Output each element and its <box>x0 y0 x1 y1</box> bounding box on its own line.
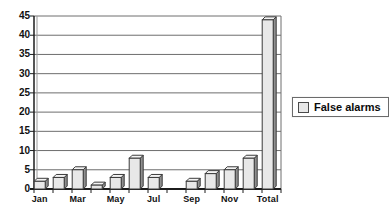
bar-Jul <box>148 177 159 189</box>
bar-May <box>110 177 121 189</box>
bar-Jun <box>129 158 140 189</box>
bar-Feb <box>53 177 64 189</box>
bar-Mar <box>72 170 83 189</box>
legend-label: False alarms <box>314 101 381 113</box>
legend-swatch-icon <box>298 102 309 113</box>
bar-Oct <box>205 174 216 189</box>
bar-Jan <box>34 181 45 189</box>
bar-Sep <box>186 181 197 189</box>
legend: False alarms <box>292 97 389 117</box>
bar-Nov <box>224 170 235 189</box>
bar-Total <box>262 20 273 189</box>
bar-Apr <box>91 185 102 189</box>
bar-Dec <box>243 158 254 189</box>
plot-area <box>26 14 288 200</box>
